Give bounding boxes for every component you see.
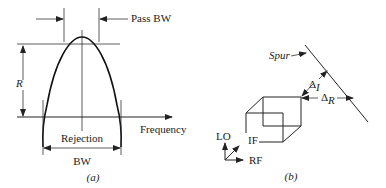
rejection-label: Rejection (61, 132, 104, 144)
delta-i-label: ΔI (309, 78, 321, 93)
bw-label: BW (73, 155, 91, 167)
frequency-label: Frequency (140, 123, 187, 135)
figure-b-caption: (b) (285, 170, 298, 183)
spur-pointer-arrow (291, 53, 306, 56)
figure-a-filter-response: Pass BW R Frequency Rejection BW (a) (15, 8, 187, 184)
if-label: IF (248, 134, 258, 146)
delta-i-arrow-upper (319, 71, 327, 79)
delta-r-label: ΔR (321, 91, 335, 106)
figure-b-spur-cube: Spur ΔI ΔR IF LO RF (216, 45, 368, 183)
if-axis-arrow (225, 146, 239, 160)
spur-label: Spur (269, 49, 291, 61)
lo-label: LO (216, 130, 231, 142)
pass-bw-label: Pass BW (131, 12, 172, 24)
diagram-canvas: Pass BW R Frequency Rejection BW (a) Spu… (0, 0, 386, 188)
r-label: R (15, 77, 23, 89)
rf-label: RF (249, 154, 262, 166)
figure-a-caption: (a) (87, 171, 100, 184)
